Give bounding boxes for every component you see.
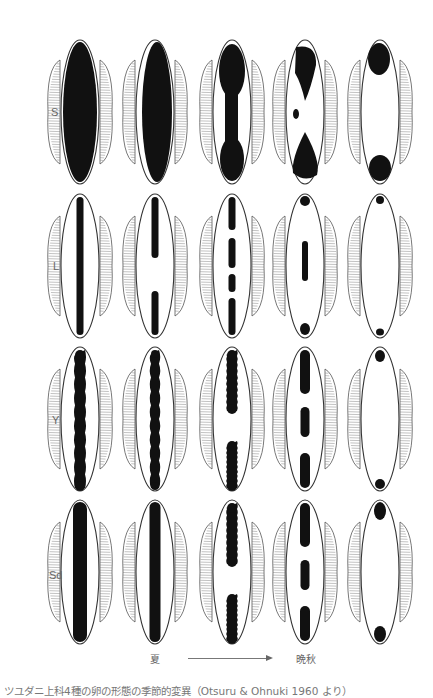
egg-l-5 xyxy=(348,194,413,338)
egg-y-2 xyxy=(123,347,188,491)
egg-l-3 xyxy=(200,194,265,338)
row-label-sd: Sd xyxy=(49,569,62,581)
egg-s-5 xyxy=(348,40,413,184)
egg-s-4 xyxy=(273,40,338,184)
egg-sd-3 xyxy=(200,500,265,644)
row-label-y: Y xyxy=(52,414,59,426)
season-end-label: 晩秋 xyxy=(296,651,316,666)
egg-y-3 xyxy=(200,347,265,491)
egg-sd-5 xyxy=(348,500,413,644)
row-label-s: S xyxy=(51,106,58,118)
egg-sd-2 xyxy=(123,500,188,644)
egg-s-3 xyxy=(200,40,265,184)
egg-y-4 xyxy=(273,347,338,491)
egg-y-5 xyxy=(348,347,413,491)
right-arrow-icon xyxy=(188,658,271,659)
egg-l-4 xyxy=(273,194,338,338)
row-label-l: L xyxy=(53,260,59,272)
season-start-label: 夏 xyxy=(150,651,160,666)
figure-caption: ツユダニ上科4種の卵の形態の季節的変異（Otsuru & Ohnuki 1960… xyxy=(4,683,352,698)
egg-s-2 xyxy=(123,40,188,184)
egg-sd-4 xyxy=(273,500,338,644)
egg-l-2 xyxy=(123,194,188,338)
